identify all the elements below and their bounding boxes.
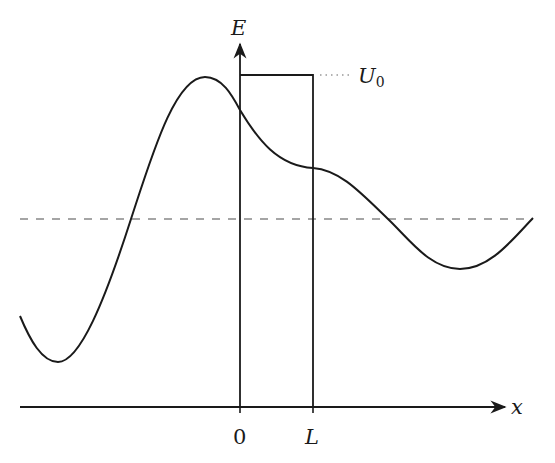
tick-label-origin: 0 (233, 425, 246, 449)
tick-label-L: L (304, 425, 319, 449)
barrier-height-label: U0 (358, 64, 385, 90)
barrier-height-main: U (358, 64, 377, 88)
barrier-height-subscript: 0 (376, 74, 385, 90)
barrier-diagram: E x 0 L U0 (0, 0, 555, 463)
x-axis-label: x (511, 395, 523, 419)
y-axis-label: E (230, 16, 246, 40)
potential-barrier (240, 75, 313, 407)
